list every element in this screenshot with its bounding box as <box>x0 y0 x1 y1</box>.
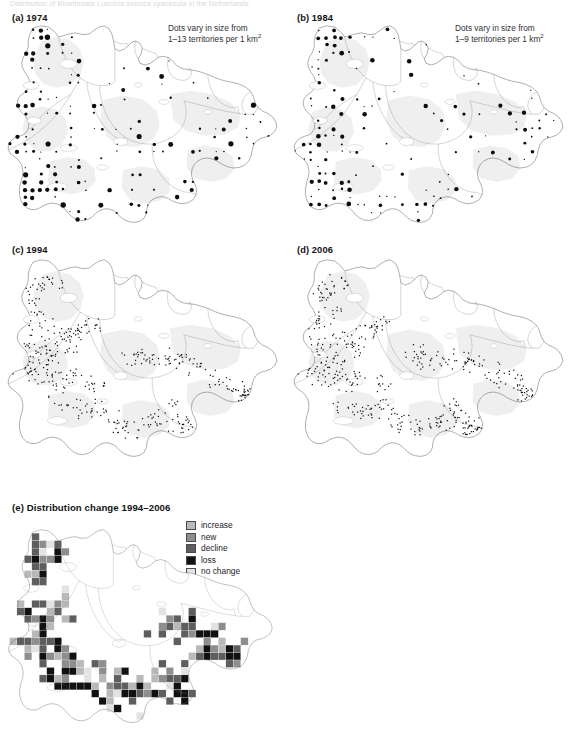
panel-label-e: (e) Distribution change 1994–2006 <box>12 502 170 513</box>
map-panel-1974 <box>6 24 278 226</box>
panel-label-c: (c) 1994 <box>12 245 47 255</box>
map-panel-1984 <box>292 24 564 226</box>
figure-panel-grid: Distribution of Bluethroats Luscinia sve… <box>0 0 586 737</box>
map-panel-1994 <box>6 258 278 460</box>
panel-label-a: (a) 1974 <box>12 13 47 23</box>
map-panel-change <box>6 528 274 726</box>
panel-label-d: (d) 2006 <box>297 245 333 255</box>
figure-caption: Distribution of Bluethroats Luscinia sve… <box>10 0 570 8</box>
panel-label-b: (b) 1984 <box>297 13 333 23</box>
map-panel-2006 <box>292 258 564 460</box>
